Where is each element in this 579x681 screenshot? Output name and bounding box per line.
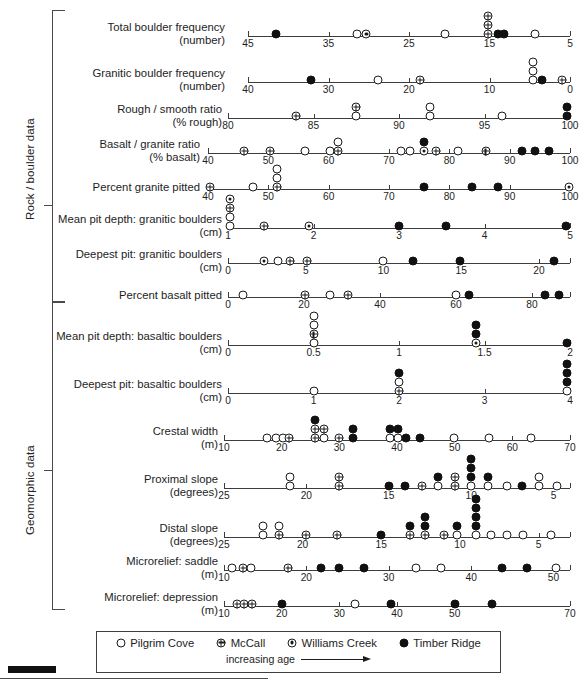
axis-tick [510, 185, 511, 189]
axis-tick-label: 1 [225, 230, 231, 241]
axis-tick [399, 114, 400, 118]
axis-tick-label: 35 [323, 38, 334, 49]
row-label-unit: (cm) [76, 261, 222, 274]
data-point-mccall [240, 147, 249, 156]
data-point-timber [483, 473, 492, 482]
axis-tick-label: 1.5 [477, 347, 491, 358]
axis-tick-label: 0.5 [306, 347, 320, 358]
axis-tick [532, 293, 533, 297]
axis-tick-label: 25 [403, 38, 414, 49]
data-point-mccall [335, 434, 344, 443]
axis-tick [409, 78, 410, 82]
row-label-deepest-pit-granitic: Deepest pit: granitic boulders(cm) [76, 248, 222, 273]
axis-tick [510, 149, 511, 153]
data-point-mccall [483, 12, 492, 21]
data-point-pilgrim [275, 522, 284, 531]
data-point-pilgrim [309, 312, 318, 321]
axis-tick-label: 80 [444, 191, 455, 202]
axis-tick-label: 100 [562, 155, 579, 166]
data-point-pilgrim [471, 531, 480, 540]
axis-tick [485, 389, 486, 393]
data-point-pilgrim [397, 147, 406, 156]
axis-line [208, 189, 570, 190]
data-point-mccall [309, 330, 318, 339]
axis-tick-label: 10 [218, 442, 229, 453]
axis-tick-label: 2 [311, 230, 317, 241]
data-point-timber [471, 513, 480, 522]
data-point-timber [311, 416, 320, 425]
axis-tick-label: 2 [396, 395, 402, 406]
row-label-main: Mean pit depth: basaltic boulders [56, 330, 222, 343]
data-point-timber [405, 522, 414, 531]
data-point-timber [360, 564, 369, 573]
axis-tick-label: 15 [383, 490, 394, 501]
row-label-basalt-granite-ratio: Basalt / granite ratio(% basalt) [100, 138, 200, 163]
data-point-pilgrim [352, 30, 361, 39]
axis-tick-label: 1 [311, 395, 317, 406]
axis-tick-label: 5 [567, 230, 573, 241]
row-label-main: Percent granite pitted [93, 181, 200, 194]
data-point-pilgrim [352, 112, 361, 121]
axis-tick [389, 149, 390, 153]
axis-tick-label: 0 [225, 395, 231, 406]
legend-items: Pilgrim Cove McCall Williams Creek Timbe… [97, 632, 500, 653]
data-point-mccall [303, 257, 312, 266]
axis-cap-right [570, 532, 571, 537]
axis-tick [449, 149, 450, 153]
row-label-main: Mean pit depth: granitic boulders [58, 213, 222, 226]
axis-tick-label: 15 [456, 265, 467, 276]
data-point-mccall [300, 291, 309, 300]
axis-tick [485, 224, 486, 228]
data-point-timber [471, 522, 480, 531]
data-point-pilgrim [309, 339, 318, 348]
axis-tick-label: 0 [225, 299, 231, 310]
row-label-main: Granitic boulder frequency [93, 67, 226, 80]
axis-tick-label: 50 [263, 191, 274, 202]
axis-tick [399, 341, 400, 345]
axis-cap-right [570, 258, 571, 263]
axis-line [248, 82, 570, 83]
row-label-percent-granite-pitted: Percent granite pitted [93, 181, 200, 194]
axis-tick-label: 70 [564, 442, 575, 453]
data-point-mccall [335, 473, 344, 482]
data-point-pilgrim [531, 30, 540, 39]
data-point-timber [306, 76, 315, 85]
axis-tick-label: 80 [222, 120, 233, 131]
group-tick-rock-1 [44, 205, 52, 206]
data-point-pilgrim [528, 58, 537, 67]
data-point-mccall [292, 112, 301, 121]
data-point-pilgrim [452, 291, 461, 300]
axis-tick-label: 70 [383, 191, 394, 202]
axis-tick [329, 185, 330, 189]
axis-tick [389, 566, 390, 570]
dotted-circle-icon [288, 638, 297, 647]
data-point-timber [434, 473, 443, 482]
axis-tick-label: 60 [323, 155, 334, 166]
data-point-timber [465, 291, 474, 300]
axis-tick-label: 70 [564, 608, 575, 619]
axis-tick [224, 533, 225, 537]
data-point-timber [395, 222, 404, 231]
axis-tick-label: 20 [403, 84, 414, 95]
row-label-unit: (m) [153, 438, 218, 451]
data-point-pilgrim [441, 30, 450, 39]
axis-tick-label: 40 [391, 442, 402, 453]
data-point-mccall [417, 482, 426, 491]
data-point-pilgrim [518, 531, 527, 540]
axis-tick-label: 20 [276, 608, 287, 619]
data-point-pilgrim [552, 482, 561, 491]
axis-tick [228, 341, 229, 345]
axis-tick-label: 5 [303, 265, 309, 276]
data-point-mccall [259, 222, 268, 231]
data-point-mccall [432, 147, 441, 156]
data-point-pilgrim [434, 482, 443, 491]
data-point-pilgrim [534, 482, 543, 491]
axis-tick-label: 0 [225, 265, 231, 276]
data-point-pilgrim [249, 183, 258, 192]
axis-tick-label: 20 [297, 539, 308, 550]
axis-tick-label: 50 [548, 572, 559, 583]
row-label-unit: (number) [108, 34, 225, 47]
axis-tick-label: 40 [202, 155, 213, 166]
data-point-pilgrim [225, 213, 234, 222]
data-point-williams [259, 257, 268, 266]
